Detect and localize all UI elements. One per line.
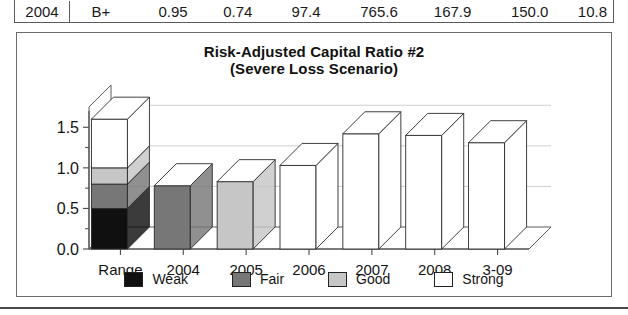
table-cell-rating: B+ (70, 1, 132, 22)
chart-panel: Risk-Adjusted Capital Ratio #2 (Severe L… (16, 32, 612, 297)
legend-swatch-weak (124, 272, 143, 287)
table-cell-value-7: 10.8 (557, 1, 613, 22)
legend-item-good: Good (328, 272, 390, 287)
figure-page: 2004 B+ 0.95 0.74 97.4 765.6 167.9 150.0… (0, 0, 628, 315)
chart-svg: 0.00.51.01.5Range200420052006200720083-0… (17, 33, 613, 298)
legend-label-fair: Fair (260, 272, 284, 287)
table-cell-value-5: 167.9 (407, 1, 481, 22)
table-cell-value-2: 0.74 (197, 1, 262, 22)
y-axis-tick-label: 0.0 (57, 241, 79, 258)
y-axis-tick-label: 0.5 (57, 200, 79, 217)
page-bottom-rule (0, 307, 628, 309)
table-cell-value-1: 0.95 (132, 1, 197, 22)
bar-2004 (154, 164, 212, 249)
legend-item-strong: Strong (434, 272, 503, 287)
legend-item-weak: Weak (124, 272, 188, 287)
table-cell-year: 2004 (15, 1, 70, 22)
bar-2005 (217, 160, 275, 249)
legend-label-weak: Weak (152, 272, 188, 287)
y-axis-tick-label: 1.0 (57, 160, 79, 177)
table-cell-value-4: 765.6 (330, 1, 407, 22)
data-table-strip: 2004 B+ 0.95 0.74 97.4 765.6 167.9 150.0… (14, 0, 614, 23)
legend-item-fair: Fair (232, 272, 284, 287)
legend-label-strong: Strong (462, 272, 503, 287)
table-cell-value-6: 150.0 (480, 1, 557, 22)
bar-3-09 (469, 121, 527, 249)
bar-2007 (343, 112, 401, 249)
legend-swatch-strong (434, 272, 453, 287)
bar-2008 (406, 113, 464, 249)
table-row: 2004 B+ 0.95 0.74 97.4 765.6 167.9 150.0… (15, 0, 613, 22)
legend-swatch-fair (232, 272, 251, 287)
legend-label-good: Good (356, 272, 390, 287)
bar-range-stacked (91, 97, 149, 249)
chart-legend: Weak Fair Good Strong (17, 272, 611, 287)
legend-swatch-good (328, 272, 347, 287)
table-cell-value-3: 97.4 (261, 1, 329, 22)
bar-2006 (280, 143, 338, 249)
y-axis-tick-label: 1.5 (57, 119, 79, 136)
plot-area: 0.00.51.01.5Range200420052006200720083-0… (17, 33, 613, 298)
